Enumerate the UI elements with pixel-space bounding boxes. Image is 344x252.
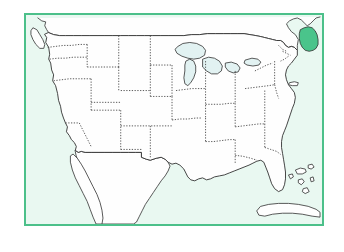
long-island-outline <box>288 82 298 86</box>
bahamas-island <box>308 164 314 169</box>
screenshot-root <box>0 0 344 252</box>
bahamas-island <box>310 177 314 182</box>
map-frame <box>24 13 324 226</box>
cuba-outline <box>257 203 320 217</box>
us-map-svg <box>26 15 322 224</box>
bahamas-island <box>302 188 309 194</box>
lake-ontario <box>244 58 261 66</box>
bahamas-island <box>295 168 306 174</box>
highlighted-state-maine[interactable] <box>299 27 318 52</box>
vancouver-island-outline <box>31 28 45 49</box>
bahamas-island <box>288 174 293 179</box>
bahamas-islands-group <box>288 164 314 193</box>
bahamas-island <box>298 179 304 185</box>
